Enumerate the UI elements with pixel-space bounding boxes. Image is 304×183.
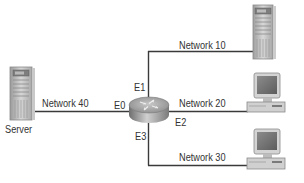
network-diagram: Server — [0, 0, 304, 183]
network-20-label: Network 20 — [179, 98, 226, 109]
desktop-pc-icon — [246, 128, 288, 176]
interface-e1-label: E1 — [134, 82, 145, 93]
network-40-label: Network 40 — [42, 98, 89, 109]
network-10-label: Network 10 — [179, 40, 226, 51]
server-tower-icon — [9, 66, 35, 125]
router-icon — [127, 94, 171, 130]
server-tower-icon — [252, 4, 276, 64]
interface-e0-label: E0 — [114, 100, 125, 111]
interface-e3-label: E3 — [135, 131, 146, 142]
server-label: Server — [5, 124, 32, 135]
network-30-label: Network 30 — [179, 152, 226, 163]
interface-e2-label: E2 — [175, 117, 186, 128]
desktop-pc-icon — [246, 72, 288, 118]
